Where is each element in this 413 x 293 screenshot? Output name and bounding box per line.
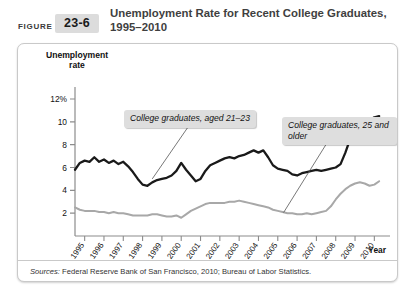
source-divider xyxy=(18,260,397,261)
x-tick-label: 1995 xyxy=(69,241,87,261)
x-tick-label: 2000 xyxy=(165,241,183,261)
x-tick-label: 2008 xyxy=(320,241,338,261)
figure-word-label: FIGURE xyxy=(18,22,52,31)
x-tick-label: 2003 xyxy=(223,241,241,261)
x-tick-label: 2006 xyxy=(281,241,299,261)
source-label: Sources: xyxy=(30,267,60,276)
figure-title: Unemployment Rate for Recent College Gra… xyxy=(110,6,400,34)
x-tick-label: 2002 xyxy=(204,241,222,261)
x-tick-label: 2007 xyxy=(300,241,318,261)
y-tick-label: 4 xyxy=(62,185,67,195)
x-tick-label: 1996 xyxy=(88,241,106,261)
x-tick-label: 2001 xyxy=(185,241,203,261)
annotation-leader-line xyxy=(284,145,326,213)
source-note: Sources: Federal Reserve Bank of San Fra… xyxy=(30,267,311,276)
x-tick-label: 1997 xyxy=(107,241,125,261)
x-tick-label: 2005 xyxy=(262,241,280,261)
y-tick-label: 2 xyxy=(62,208,67,218)
series-line-older-grads xyxy=(75,181,379,218)
annotation-older-grads: College graduates, 25 and older xyxy=(282,117,397,145)
y-tick-label: 8 xyxy=(62,140,67,150)
x-tick-label: 1999 xyxy=(146,241,164,261)
x-tick-label: 2009 xyxy=(339,241,357,261)
y-tick-label: 10 xyxy=(58,117,68,127)
x-tick-label: 1998 xyxy=(127,241,145,261)
x-tick-label: 2004 xyxy=(243,241,261,261)
figure-header: FIGURE 23-6 Unemployment Rate for Recent… xyxy=(0,0,413,42)
source-text: Federal Reserve Bank of San Francisco, 2… xyxy=(60,267,311,276)
annotation-young-grads: College graduates, aged 21–23 xyxy=(124,110,256,128)
y-tick-label: 6 xyxy=(62,163,67,173)
annotation-leader-line xyxy=(152,128,187,179)
y-tick-label: 12% xyxy=(50,94,67,104)
x-tick-label: 2010 xyxy=(358,241,376,261)
figure-number-text: 23-6 xyxy=(55,14,99,33)
line-chart: 24681012%1995199619971998199920002001200… xyxy=(18,44,397,281)
figure-root: FIGURE 23-6 Unemployment Rate for Recent… xyxy=(0,0,413,293)
figure-panel: Unemployment rate Year 24681012%19951996… xyxy=(17,43,398,282)
figure-number-badge: 23-6 xyxy=(55,14,99,33)
